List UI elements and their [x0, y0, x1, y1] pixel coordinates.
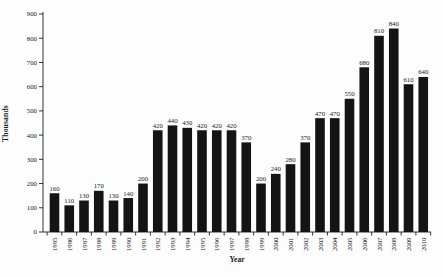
y-axis-title: Thousands [1, 82, 10, 166]
x-tick-label: 2006 [361, 237, 368, 251]
y-tick-label: 0 [34, 228, 38, 235]
y-tick-label: 900 [27, 10, 38, 17]
x-tick-label: 2010 [420, 237, 427, 251]
bar [182, 128, 192, 232]
x-tick-label: 1990 [125, 237, 132, 251]
bar [168, 125, 178, 232]
bar-value-label: 200 [138, 175, 149, 182]
x-axis-title: Year [43, 255, 431, 264]
y-tick-label: 200 [27, 180, 38, 187]
x-tick-label: 1987 [81, 237, 88, 251]
bar-value-label: 110 [64, 197, 75, 204]
y-tick-label: 600 [27, 83, 38, 90]
x-tick-label: 1994 [184, 237, 191, 251]
bar-value-label: 130 [108, 192, 119, 199]
bar [109, 201, 119, 232]
bar-value-label: 280 [285, 156, 296, 163]
bar [64, 205, 74, 232]
bar [345, 99, 355, 232]
bar-value-label: 550 [344, 90, 355, 97]
bar [418, 77, 428, 232]
x-tick-label: 2008 [390, 237, 397, 251]
y-tick-label: 700 [27, 59, 38, 66]
x-tick-label: 1986 [66, 237, 73, 251]
x-tick-label: 1989 [110, 237, 117, 251]
y-tick-label: 500 [27, 107, 38, 114]
x-tick-label: 2001 [287, 238, 294, 252]
bar [50, 193, 60, 232]
chart-canvas: 0100200300400500600700800900160198511019… [0, 0, 443, 277]
x-tick-label: 1998 [243, 237, 250, 251]
bar-value-label: 170 [94, 182, 105, 189]
bar-value-label: 140 [123, 190, 134, 197]
x-tick-label: 1997 [228, 237, 235, 251]
bar-value-label: 610 [403, 76, 414, 83]
bar-value-label: 810 [374, 27, 385, 34]
bar-value-label: 370 [241, 134, 252, 141]
bar [227, 130, 237, 232]
bar [389, 29, 399, 232]
x-tick-label: 2002 [302, 237, 309, 251]
x-tick-label: 1996 [213, 237, 220, 251]
y-tick-label: 800 [27, 35, 38, 42]
x-tick-label: 2007 [376, 237, 383, 251]
bar [212, 130, 222, 232]
bar [79, 201, 89, 232]
bar-value-label: 470 [330, 110, 341, 117]
bar-value-label: 840 [389, 20, 400, 27]
bar-value-label: 420 [197, 122, 208, 129]
bar [271, 174, 281, 232]
y-tick-label: 400 [27, 132, 38, 139]
x-tick-label: 2005 [346, 237, 353, 251]
bar-value-label: 420 [212, 122, 223, 129]
x-tick-label: 2004 [331, 237, 338, 251]
bar [123, 198, 133, 232]
bar-value-label: 440 [167, 117, 178, 124]
bar [359, 67, 369, 232]
bar [286, 164, 296, 232]
bar [138, 184, 148, 232]
bar [256, 184, 266, 232]
y-tick-label: 300 [27, 156, 38, 163]
bar [241, 142, 251, 232]
bar [300, 142, 310, 232]
bar-value-label: 130 [79, 192, 90, 199]
bar-value-label: 200 [256, 175, 267, 182]
bar-value-label: 160 [49, 185, 60, 192]
bar-value-label: 420 [226, 122, 237, 129]
x-tick-label: 1999 [258, 237, 265, 251]
bar [197, 130, 207, 232]
x-tick-label: 2000 [272, 237, 279, 251]
bar-value-label: 680 [359, 59, 370, 66]
bar-value-label: 420 [153, 122, 164, 129]
bar-chart-figure: 0100200300400500600700800900160198511019… [0, 0, 443, 277]
x-tick-label: 2009 [405, 237, 412, 251]
x-tick-label: 1988 [95, 237, 102, 251]
bar-value-label: 240 [271, 165, 282, 172]
y-tick-label: 100 [27, 204, 38, 211]
bar [330, 118, 340, 232]
x-tick-label: 1991 [140, 238, 147, 252]
bar-value-label: 470 [315, 110, 326, 117]
bar [404, 84, 414, 232]
x-tick-label: 1992 [154, 237, 161, 251]
bar [94, 191, 104, 232]
bar-value-label: 370 [300, 134, 311, 141]
bar [153, 130, 163, 232]
bar-value-label: 430 [182, 119, 193, 126]
bar [374, 36, 384, 232]
x-tick-label: 2003 [317, 237, 324, 251]
x-tick-label: 1995 [199, 237, 206, 251]
x-tick-label: 1985 [51, 237, 58, 251]
x-tick-label: 1993 [169, 237, 176, 251]
bar [315, 118, 325, 232]
bar-value-label: 640 [418, 68, 429, 75]
